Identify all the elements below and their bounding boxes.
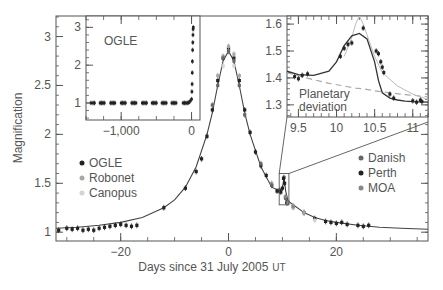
data-point xyxy=(114,102,117,105)
data-point xyxy=(301,74,304,77)
data-point xyxy=(379,60,382,63)
legend-label: Perth xyxy=(368,166,397,180)
x-tick-label: −20 xyxy=(111,245,132,259)
data-point xyxy=(227,45,230,48)
data-point xyxy=(248,131,251,134)
legend-label: OGLE xyxy=(89,156,122,170)
data-point xyxy=(98,227,101,230)
data-point xyxy=(340,221,343,224)
data-point xyxy=(65,227,68,230)
data-point xyxy=(135,102,138,105)
data-point xyxy=(238,84,241,87)
data-point xyxy=(362,225,365,228)
data-point xyxy=(284,195,287,198)
data-point xyxy=(81,229,84,232)
data-point xyxy=(124,224,127,227)
y-tick-label: 1.4 xyxy=(265,71,282,85)
data-point xyxy=(339,55,342,58)
data-point xyxy=(71,228,74,231)
data-point xyxy=(293,75,296,78)
data-point xyxy=(192,26,195,29)
data-point xyxy=(238,79,241,82)
data-point xyxy=(281,187,284,190)
data-point xyxy=(350,41,353,44)
data-point xyxy=(420,100,423,103)
data-point xyxy=(297,77,300,80)
data-point xyxy=(165,102,168,105)
data-point xyxy=(259,162,262,165)
data-point xyxy=(191,49,194,52)
y-tick-label: 2 xyxy=(74,58,81,72)
data-point xyxy=(191,71,194,74)
data-point xyxy=(87,228,90,231)
data-point xyxy=(195,170,198,173)
x-tick-label: 0 xyxy=(188,124,195,138)
data-point xyxy=(346,43,349,46)
legend-marker xyxy=(359,156,364,161)
legend-marker xyxy=(80,161,85,166)
data-point xyxy=(192,34,195,37)
data-point xyxy=(362,27,365,30)
data-point xyxy=(216,74,219,77)
data-point xyxy=(205,135,208,138)
data-point xyxy=(191,83,194,86)
y-tick-label: 1.5 xyxy=(265,44,282,58)
data-point xyxy=(392,97,395,100)
data-point xyxy=(238,74,241,77)
legend-label: Danish xyxy=(368,151,405,165)
microlensing-light-curve-figure: 11.522.53−20020 123−1,0000 1.31.41.51.69… xyxy=(0,0,443,290)
data-point xyxy=(190,98,193,101)
data-point xyxy=(222,56,225,59)
data-point xyxy=(313,219,316,222)
data-point xyxy=(216,79,219,82)
data-point xyxy=(382,71,385,74)
data-point xyxy=(232,59,235,62)
data-point xyxy=(324,220,327,223)
data-point xyxy=(155,102,158,105)
legend-marker xyxy=(359,186,364,191)
data-point xyxy=(375,50,378,53)
inset-planetary-label-line1: Planetary xyxy=(299,87,350,101)
data-point xyxy=(76,227,79,230)
data-point xyxy=(130,225,133,228)
y-tick-label: 1.5 xyxy=(34,176,51,190)
data-point xyxy=(302,211,305,214)
legend-marker xyxy=(80,191,85,196)
data-point xyxy=(388,93,391,96)
data-point xyxy=(265,174,268,177)
data-point xyxy=(162,206,165,209)
inset-planetary-label-line2: deviation xyxy=(299,100,347,114)
y-tick-label: 3 xyxy=(44,30,51,44)
data-point xyxy=(114,224,117,227)
data-point xyxy=(346,223,349,226)
data-point xyxy=(145,102,148,105)
legend-label: Canopus xyxy=(89,186,137,200)
data-point xyxy=(343,47,346,50)
legend-marker xyxy=(80,176,85,181)
data-point xyxy=(103,102,106,105)
x-tick-label: −1,000 xyxy=(103,124,140,138)
x-tick-label: 10 xyxy=(330,121,344,135)
inset-baseline-label: OGLE xyxy=(104,34,137,48)
data-point xyxy=(367,224,370,227)
data-point xyxy=(103,226,106,229)
data-point xyxy=(216,84,219,87)
legend-marker xyxy=(359,171,364,176)
data-point xyxy=(184,187,187,190)
data-point xyxy=(243,113,246,116)
x-tick-label: 0 xyxy=(225,245,232,259)
data-point xyxy=(135,224,138,227)
data-point xyxy=(411,99,414,102)
data-point xyxy=(279,190,282,193)
data-point xyxy=(211,103,214,106)
x-tick-label: 20 xyxy=(330,245,344,259)
x-axis-label: Days since 31 July 2005UT xyxy=(138,260,285,274)
data-point xyxy=(283,182,286,185)
data-point xyxy=(292,205,295,208)
y-tick-label: 1.3 xyxy=(265,98,282,112)
data-point xyxy=(222,64,225,67)
data-point xyxy=(191,60,194,63)
data-point xyxy=(415,101,418,104)
data-point xyxy=(232,64,235,67)
y-tick-label: 3 xyxy=(74,20,81,34)
